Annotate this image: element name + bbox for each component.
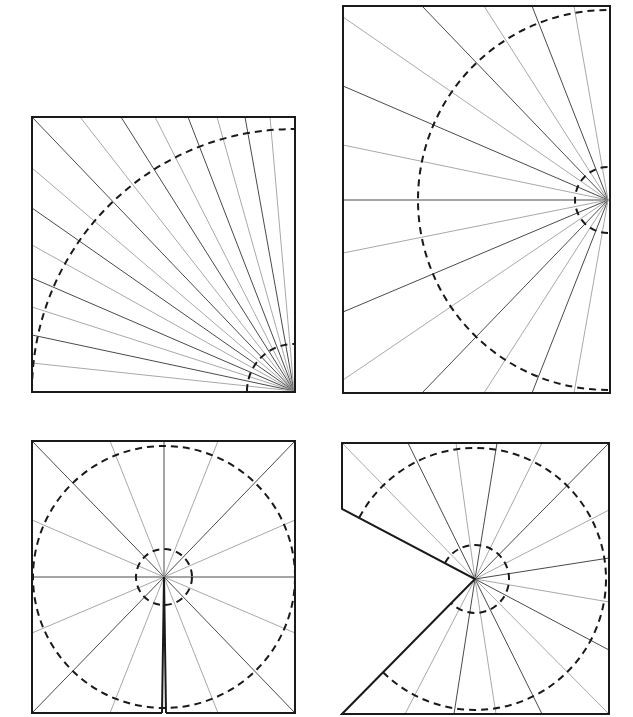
- crease-ray: [475, 443, 542, 579]
- crease-ray: [475, 443, 497, 579]
- crease-ray: [32, 168, 294, 391]
- crease-ray: [110, 577, 164, 713]
- crease-ray: [422, 6, 608, 200]
- diagram-half-fan: [343, 6, 610, 393]
- crease-ray: [164, 577, 295, 713]
- crease-ray: [422, 200, 608, 393]
- crease-ray: [32, 245, 294, 391]
- crease-ray: [164, 577, 295, 633]
- crease-ray: [80, 117, 294, 391]
- diagram-quarter-fan: [32, 117, 295, 392]
- crease-ray: [532, 200, 608, 393]
- cut-line: [164, 577, 166, 713]
- crease-ray: [475, 443, 609, 579]
- crease-ray: [164, 577, 218, 713]
- dashed-reference-circle: [32, 129, 294, 391]
- diagram-fan-wedge-removed: [342, 443, 609, 714]
- crease-ray: [188, 117, 294, 391]
- crease-ray: [32, 363, 294, 391]
- crease-ray: [32, 307, 294, 391]
- crease-ray: [343, 200, 608, 312]
- dashed-reference-circle: [359, 448, 606, 710]
- crease-ray: [110, 441, 164, 577]
- crease-ray: [532, 6, 608, 200]
- crease-ray: [484, 200, 608, 393]
- crease-ray: [32, 577, 164, 633]
- diagram-canvas: [0, 0, 633, 717]
- crease-ray: [121, 117, 294, 391]
- crease-ray: [408, 443, 475, 579]
- crease-ray: [343, 86, 608, 200]
- crease-ray: [484, 6, 608, 200]
- crease-ray: [32, 520, 164, 577]
- crease-ray: [32, 278, 294, 391]
- crease-ray: [475, 579, 609, 714]
- diagram-full-fan-slit: [32, 441, 295, 713]
- crease-ray: [475, 579, 609, 650]
